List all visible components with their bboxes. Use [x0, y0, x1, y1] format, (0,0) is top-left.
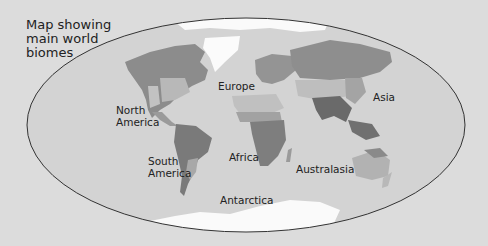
africa-sahel — [236, 112, 282, 122]
africa-north — [232, 94, 284, 114]
label-europe: Europe — [218, 80, 255, 92]
label-north-america: North America — [116, 104, 159, 128]
title-line-2: main world — [26, 32, 126, 46]
label-south-america: South America — [148, 155, 191, 179]
label-australasia: Australasia — [296, 163, 354, 175]
title-line-3: biomes — [26, 46, 126, 60]
label-line: America — [148, 167, 191, 179]
label-africa: Africa — [229, 151, 259, 163]
label-line: South — [148, 155, 191, 167]
title-line-1: Map showing — [26, 18, 126, 32]
label-line: North — [116, 104, 159, 116]
label-antarctica: Antarctica — [220, 194, 274, 206]
label-line: America — [116, 116, 159, 128]
label-asia: Asia — [373, 91, 395, 103]
map-title: Map showing main world biomes — [26, 18, 126, 60]
